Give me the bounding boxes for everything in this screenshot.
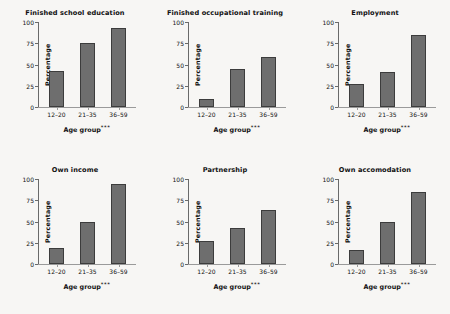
x-axis-label: Age group*** (188, 124, 286, 134)
chart-panel-5: PartnershipPercentage025507510012–2021–3… (150, 157, 300, 314)
chart-title: Own income (0, 166, 150, 174)
y-axis-tick-label: 100 (23, 19, 34, 26)
x-axis-tick-label: 12–20 (40, 111, 74, 118)
y-axis-tick-label: 50 (176, 61, 184, 68)
x-axis-tick (238, 107, 239, 110)
chart-title: Finished school education (0, 9, 150, 17)
x-axis-tick-label: 36–59 (402, 111, 436, 118)
y-axis-tick-label: 0 (330, 261, 334, 268)
y-axis-tick-label: 25 (26, 239, 34, 246)
x-axis-tick (119, 107, 120, 110)
y-axis-tick-label: 75 (326, 197, 334, 204)
plot-area: Percentage025507510012–2021–3536–59Age g… (338, 22, 436, 107)
x-axis-tick-label: 36–59 (252, 268, 286, 275)
x-axis-tick-label: 12–20 (190, 111, 224, 118)
significance-marker: *** (251, 124, 261, 130)
bar (349, 250, 364, 264)
x-axis-tick-label: 21–35 (371, 268, 405, 275)
x-axis-tick (357, 264, 358, 267)
y-axis-tick-label: 0 (180, 104, 184, 111)
chart-title: Finished occupational training (150, 9, 300, 17)
significance-marker: *** (101, 124, 111, 130)
y-axis-tick-label: 0 (30, 104, 34, 111)
x-axis-tick (388, 264, 389, 267)
x-axis-tick (269, 264, 270, 267)
bar (49, 248, 64, 264)
bar (199, 99, 214, 108)
x-axis-label-text: Age group (64, 126, 101, 134)
x-axis-label: Age group*** (338, 124, 436, 134)
x-axis-tick (419, 107, 420, 110)
y-axis-tick-label: 100 (323, 176, 334, 183)
y-axis-tick-label: 25 (26, 82, 34, 89)
x-axis-tick-label: 21–35 (71, 111, 105, 118)
x-axis-label-text: Age group (364, 126, 401, 134)
plot-area: Percentage025507510012–2021–3536–59Age g… (188, 22, 286, 107)
chart-panel-2: Finished occupational trainingPercentage… (150, 0, 300, 157)
y-axis-tick-label: 0 (30, 261, 34, 268)
y-axis-tick-label: 50 (176, 218, 184, 225)
y-axis-tick-label: 100 (173, 176, 184, 183)
bar (80, 222, 95, 264)
y-axis-tick-label: 100 (23, 176, 34, 183)
bar (261, 210, 276, 264)
y-axis-tick-label: 75 (176, 40, 184, 47)
y-axis-tick-label: 75 (26, 40, 34, 47)
bar (380, 222, 395, 264)
bar-series (338, 179, 436, 264)
bar (49, 71, 64, 107)
bar-series (188, 22, 286, 107)
bar (411, 35, 426, 107)
x-axis-tick-label: 36–59 (252, 111, 286, 118)
y-axis-tick-label: 75 (326, 40, 334, 47)
significance-marker: *** (401, 124, 411, 130)
x-axis-tick (88, 107, 89, 110)
chart-title: Own accomodation (300, 166, 450, 174)
x-axis-label-text: Age group (214, 283, 251, 291)
x-axis-tick-label: 21–35 (371, 111, 405, 118)
x-axis-label-text: Age group (364, 283, 401, 291)
x-axis-tick (388, 107, 389, 110)
plot-area: Percentage025507510012–2021–3536–59Age g… (38, 179, 136, 264)
chart-title: Partnership (150, 166, 300, 174)
plot-area: Percentage025507510012–2021–3536–59Age g… (38, 22, 136, 107)
y-axis-tick-label: 0 (330, 104, 334, 111)
x-axis-tick-label: 36–59 (102, 111, 136, 118)
significance-marker: *** (401, 281, 411, 287)
bar-series (38, 179, 136, 264)
significance-marker: *** (251, 281, 261, 287)
bar (411, 192, 426, 264)
chart-panel-4: Own incomePercentage025507510012–2021–35… (0, 157, 150, 314)
x-axis-tick (57, 264, 58, 267)
x-axis-tick (419, 264, 420, 267)
y-axis-tick-label: 75 (176, 197, 184, 204)
x-axis-tick-label: 21–35 (71, 268, 105, 275)
bar (111, 184, 126, 264)
y-axis-tick-label: 75 (26, 197, 34, 204)
y-axis-tick-label: 50 (326, 61, 334, 68)
x-axis-label-text: Age group (214, 126, 251, 134)
y-axis-tick-label: 25 (326, 239, 334, 246)
bar-series (338, 22, 436, 107)
y-axis-tick-label: 50 (26, 218, 34, 225)
x-axis-label: Age group*** (38, 281, 136, 291)
x-axis-tick-label: 12–20 (340, 268, 374, 275)
x-axis-tick (207, 107, 208, 110)
chart-panel-grid: Finished school educationPercentage02550… (0, 0, 450, 314)
x-axis-tick-label: 21–35 (221, 268, 255, 275)
bar-series (38, 22, 136, 107)
bar (111, 28, 126, 107)
x-axis-tick-label: 21–35 (221, 111, 255, 118)
y-axis-tick-label: 100 (173, 19, 184, 26)
y-axis-tick-label: 50 (26, 61, 34, 68)
x-axis-tick-label: 36–59 (402, 268, 436, 275)
bar (230, 228, 245, 264)
y-axis-tick-label: 0 (180, 261, 184, 268)
x-axis-tick (357, 107, 358, 110)
x-axis-tick-label: 12–20 (40, 268, 74, 275)
x-axis-label: Age group*** (188, 281, 286, 291)
x-axis-tick (238, 264, 239, 267)
y-axis-tick-label: 25 (326, 82, 334, 89)
bar (230, 69, 245, 107)
x-axis-tick-label: 36–59 (102, 268, 136, 275)
